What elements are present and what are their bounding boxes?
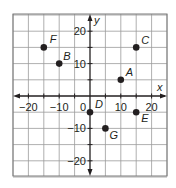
- y-tick-label: 10: [74, 58, 86, 70]
- point-dot: [56, 60, 63, 67]
- x-tick-label: −10: [50, 101, 69, 113]
- y-tick-label: 20: [74, 25, 86, 37]
- point-c: C: [133, 34, 149, 50]
- point-dot: [87, 109, 94, 116]
- coordinate-plane: x y 0 −20−1010202010−10−20 ABCDEFG: [0, 0, 176, 188]
- point-dot: [118, 77, 125, 84]
- plotted-points: ABCDEFG: [41, 33, 150, 141]
- x-tick-label: 10: [115, 101, 127, 113]
- x-axis-right-arrow-icon: [160, 94, 167, 99]
- point-label: G: [109, 129, 118, 141]
- point-label: C: [141, 34, 149, 46]
- y-tick-label: −10: [67, 122, 86, 134]
- origin-label: 0: [80, 101, 86, 113]
- point-label: B: [63, 50, 70, 62]
- y-tick-label: −20: [67, 155, 86, 167]
- x-tick-label: −20: [19, 101, 38, 113]
- point-d: D: [87, 98, 103, 115]
- x-tick-label: 20: [145, 101, 157, 113]
- x-axis-label: x: [156, 81, 163, 93]
- point-g: G: [102, 125, 118, 141]
- point-dot: [133, 109, 140, 116]
- x-axis-left-arrow-icon: [13, 94, 20, 99]
- point-a: A: [118, 66, 134, 83]
- point-dot: [41, 44, 48, 51]
- point-label: D: [95, 98, 103, 110]
- point-label: F: [50, 33, 58, 45]
- point-b: B: [56, 50, 71, 67]
- y-axis-down-arrow-icon: [88, 169, 93, 176]
- point-f: F: [41, 33, 58, 50]
- point-label: E: [141, 112, 149, 124]
- point-dot: [102, 125, 109, 132]
- point-dot: [133, 44, 140, 51]
- point-label: A: [125, 66, 133, 78]
- y-axis-label: y: [93, 14, 101, 26]
